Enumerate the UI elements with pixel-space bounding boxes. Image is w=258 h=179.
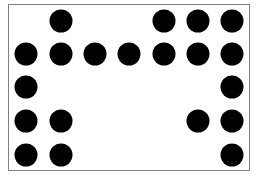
dot-r2-c6 (187, 43, 210, 66)
dot-r2-c2 (50, 43, 73, 66)
dot-r4-c1 (15, 110, 38, 133)
dot-r1-c2 (50, 10, 73, 33)
dot-r3-c1 (15, 76, 38, 99)
dot-r4-c6 (187, 110, 210, 133)
dot-r2-c7 (221, 43, 244, 66)
dot-r2-c1 (15, 43, 38, 66)
dot-r5-c7 (221, 144, 244, 167)
dot-r1-c7 (221, 10, 244, 33)
dot-r2-c4 (118, 43, 141, 66)
dot-r1-c5 (153, 10, 176, 33)
dot-r3-c7 (221, 76, 244, 99)
dot-r5-c1 (15, 144, 38, 167)
dot-r1-c6 (187, 10, 210, 33)
dot-grid-frame (8, 4, 250, 171)
dot-r4-c7 (221, 110, 244, 133)
dot-r2-c3 (84, 43, 107, 66)
dot-r2-c5 (153, 43, 176, 66)
dot-r5-c2 (50, 144, 73, 167)
dot-r4-c2 (50, 110, 73, 133)
